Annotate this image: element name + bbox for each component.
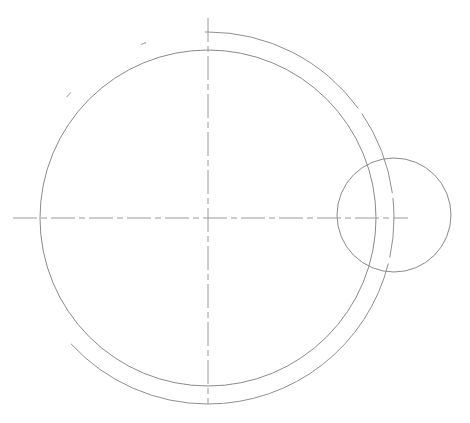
drawing-svg <box>0 0 470 423</box>
technical-drawing-canvas <box>0 0 470 423</box>
